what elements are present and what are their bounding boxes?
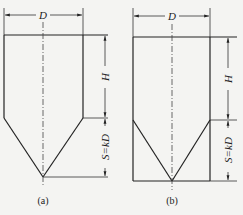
cone-height-label-b: S=kD — [222, 137, 234, 163]
caption-b: (b) — [166, 195, 178, 207]
cone-height-label-a: S=kD — [99, 134, 111, 160]
diagram-canvas: D H S=kD (a) D H S=kD — [0, 0, 243, 215]
height-label-b: H — [222, 74, 234, 84]
height-label-a: H — [99, 72, 111, 82]
diameter-label-a: D — [38, 9, 47, 21]
caption-a: (a) — [37, 195, 48, 207]
figure-a: D H S=kD (a) — [4, 8, 111, 207]
diameter-label-b: D — [167, 10, 176, 22]
figure-b: D H S=kD (b) — [133, 8, 237, 207]
